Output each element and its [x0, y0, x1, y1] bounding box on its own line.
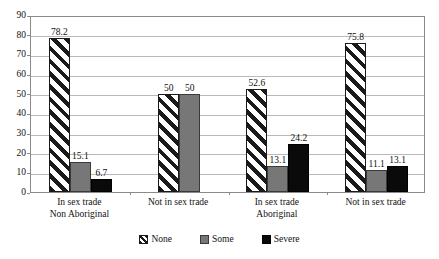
y-axis-tick-label: 20 — [17, 149, 27, 159]
plot-area: 78.215.16.7505052.613.124.275.811.113.1 — [30, 16, 425, 193]
category-label-line2: Non Aboriginal — [30, 209, 129, 221]
bar-severe — [91, 179, 112, 192]
category-label-line1: In sex trade — [57, 197, 101, 207]
y-axis-tick-label: 30 — [17, 129, 27, 139]
x-axis-tick-mark — [327, 192, 328, 195]
y-axis-tick-label: 60 — [17, 70, 27, 80]
bar-chart: 0102030405060708090 78.215.16.7505052.61… — [0, 0, 439, 259]
bar-value-label: 78.2 — [42, 27, 77, 37]
bar-value-label: 15.1 — [63, 151, 98, 161]
y-axis-tick-label: 50 — [17, 90, 27, 100]
bar-group: 75.811.113.1 — [327, 17, 426, 192]
x-axis-category-label: Not in sex trade — [129, 197, 228, 209]
legend-label: Severe — [274, 234, 300, 244]
y-axis-tick-label: 70 — [17, 51, 27, 61]
bar-group: 52.613.124.2 — [229, 17, 328, 192]
bar-none — [345, 43, 366, 192]
y-axis: 0102030405060708090 — [0, 16, 30, 193]
bar-value-label: 13.1 — [380, 155, 415, 165]
legend-label: Some — [212, 234, 234, 244]
bar-some — [267, 166, 288, 192]
legend-swatch-none-icon — [139, 235, 148, 244]
legend-swatch-some-icon — [200, 235, 209, 244]
legend-item-none: None — [139, 234, 172, 244]
category-label-line1: Not in sex trade — [345, 197, 405, 207]
x-axis-category-label: Not in sex trade — [326, 197, 425, 209]
bar-value-label: 50 — [172, 83, 207, 93]
bar-none — [49, 38, 70, 192]
y-axis-tick-label: 80 — [17, 31, 27, 41]
y-axis-tick-label: 40 — [17, 110, 27, 120]
legend-item-severe: Severe — [262, 234, 300, 244]
x-axis-tick-mark — [130, 192, 131, 195]
bar-group: 5050 — [130, 17, 229, 192]
bar-group: 78.215.16.7 — [31, 17, 130, 192]
legend-item-some: Some — [200, 234, 234, 244]
legend-label: None — [151, 234, 172, 244]
x-axis-category-label: In sex tradeNon Aboriginal — [30, 197, 129, 220]
bar-none — [158, 94, 179, 192]
bar-value-label: 52.6 — [239, 78, 274, 88]
bar-severe — [387, 166, 408, 192]
bar-value-label: 75.8 — [338, 32, 373, 42]
bar-some — [366, 170, 387, 192]
y-axis-tick-label: 0 — [21, 188, 26, 198]
category-label-line1: Not in sex trade — [148, 197, 208, 207]
bar-none — [246, 89, 267, 192]
category-label-line2: Aboriginal — [228, 209, 327, 221]
chart-legend: NoneSomeSevere — [0, 234, 439, 244]
bar-value-label: 24.2 — [281, 133, 316, 143]
category-label-line1: In sex trade — [255, 197, 299, 207]
bar-value-label: 6.7 — [84, 168, 119, 178]
legend-swatch-severe-icon — [262, 235, 271, 244]
bar-severe — [288, 144, 309, 192]
y-axis-tick-label: 90 — [17, 11, 27, 21]
bar-some — [179, 94, 200, 192]
x-axis-category-label: In sex tradeAboriginal — [228, 197, 327, 220]
y-axis-tick-label: 10 — [17, 169, 27, 179]
x-axis-tick-mark — [229, 192, 230, 195]
